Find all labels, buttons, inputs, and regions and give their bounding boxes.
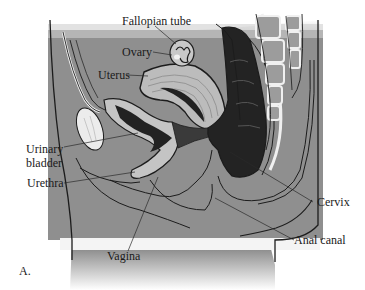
label-cervix: Cervix <box>317 196 350 209</box>
label-vagina: Vagina <box>107 250 140 263</box>
label-ovary: Ovary <box>122 46 152 59</box>
label-urinary-bladder-line2: bladder <box>26 157 62 170</box>
label-uterus: Uterus <box>98 69 130 82</box>
label-fallopian-tube: Fallopian tube <box>122 15 191 28</box>
female-pelvis-sagittal-diagram: Fallopian tube Ovary Uterus Urinary blad… <box>0 0 365 290</box>
label-urinary-bladder-line1: Urinary <box>26 143 63 156</box>
panel-label: A. <box>19 265 31 278</box>
label-anal-canal: Anal canal <box>294 234 346 247</box>
label-urethra: Urethra <box>27 177 64 190</box>
